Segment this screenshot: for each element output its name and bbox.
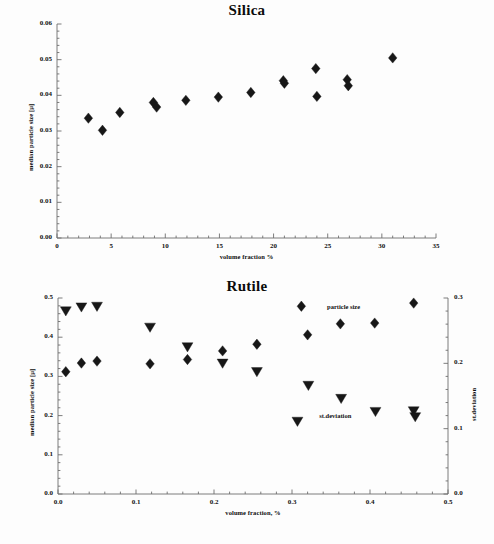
- data-point: [146, 359, 155, 369]
- data-point: [251, 368, 262, 377]
- figure-page: Silica 0.000.010.020.030.040.050.0605101…: [0, 0, 494, 544]
- silica-plot-canvas: [17, 0, 476, 278]
- y-tick-label: 0.01: [18, 197, 52, 205]
- x-tick-label: 0.1: [121, 498, 151, 506]
- data-point: [388, 53, 397, 63]
- y-tick-label: 0.00: [18, 233, 52, 241]
- y2-tick-label: 0.1: [454, 424, 480, 432]
- y-tick-label: 0.06: [18, 19, 52, 27]
- data-point: [303, 381, 314, 390]
- data-point: [60, 307, 71, 316]
- y-tick-label: 0.1: [19, 450, 53, 458]
- y-tick-label: 0.4: [19, 332, 53, 340]
- x-tick-label: 35: [421, 242, 451, 250]
- silica-plot-yaxis-title: median particle size [µ]: [27, 104, 34, 171]
- silica-plot-area: 0.000.010.020.030.040.050.06051015202530…: [57, 24, 436, 238]
- data-point: [312, 63, 321, 73]
- data-point: [313, 91, 322, 101]
- x-tick-label: 5: [96, 242, 126, 250]
- data-point: [303, 330, 312, 340]
- data-point: [183, 354, 192, 364]
- data-point: [336, 394, 347, 403]
- y-tick-label: 0.0: [19, 489, 53, 497]
- x-tick-label: 0.3: [277, 498, 307, 506]
- data-point: [76, 303, 87, 312]
- x-tick-label: 15: [204, 242, 234, 250]
- y2-tick-label: 0.2: [454, 358, 480, 366]
- y-tick-label: 0.03: [18, 126, 52, 134]
- data-point: [92, 302, 103, 311]
- data-point: [247, 87, 256, 97]
- rutile-plot-canvas: [18, 258, 488, 534]
- data-point: [182, 343, 193, 352]
- data-point: [297, 301, 306, 311]
- x-tick-label: 0.5: [433, 498, 463, 506]
- data-point: [370, 407, 381, 416]
- data-point: [98, 125, 107, 135]
- x-tick-label: 30: [367, 242, 397, 250]
- rutile-plot-y2axis-title: st.deviation: [470, 388, 477, 421]
- series-st-deviation: [60, 302, 420, 426]
- x-tick-label: 25: [313, 242, 343, 250]
- data-point: [214, 92, 223, 102]
- y-tick-label: 0.04: [18, 90, 52, 98]
- data-point: [336, 319, 345, 329]
- data-point: [145, 323, 156, 332]
- y-tick-label: 0.3: [19, 371, 53, 379]
- x-tick-label: 0.0: [43, 498, 73, 506]
- annotation-st-deviation: st.deviation: [319, 412, 351, 419]
- x-tick-label: 20: [259, 242, 289, 250]
- y2-tick-label: 0.3: [454, 293, 480, 301]
- data-point: [410, 413, 421, 422]
- x-tick-label: 10: [150, 242, 180, 250]
- data-point: [77, 358, 86, 368]
- x-tick-label: 0.2: [199, 498, 229, 506]
- x-tick-label: 0: [42, 242, 72, 250]
- data-point: [217, 359, 228, 368]
- y-tick-label: 0.05: [18, 55, 52, 63]
- y-tick-label: 0.02: [18, 162, 52, 170]
- data-point: [292, 417, 303, 426]
- silica-figure: Silica 0.000.010.020.030.040.050.0605101…: [0, 0, 494, 272]
- series-median-particle-size: [84, 53, 397, 136]
- x-tick-label: 0.4: [355, 498, 385, 506]
- data-point: [93, 356, 102, 366]
- rutile-figure: Rutile 0.00.10.20.30.40.50.00.10.20.30.4…: [0, 272, 494, 544]
- data-point: [218, 346, 227, 356]
- series-particle-size: [62, 298, 418, 377]
- data-point: [182, 95, 191, 105]
- rutile-plot-yaxis-title: median particle size [µ]: [28, 369, 35, 436]
- data-point: [253, 339, 262, 349]
- data-point: [116, 107, 125, 117]
- rutile-plot-area: 0.00.10.20.30.40.50.00.10.20.30.40.50.00…: [58, 298, 448, 494]
- data-point: [370, 318, 379, 328]
- rutile-plot-xaxis-title: volume fraction, %: [58, 509, 448, 516]
- annotation-particle-size: particle size: [327, 303, 360, 310]
- y2-tick-label: 0.0: [454, 489, 480, 497]
- y-tick-label: 0.5: [19, 293, 53, 301]
- data-point: [84, 113, 93, 123]
- data-point: [62, 366, 71, 376]
- y-tick-label: 0.2: [19, 411, 53, 419]
- data-point: [409, 298, 418, 308]
